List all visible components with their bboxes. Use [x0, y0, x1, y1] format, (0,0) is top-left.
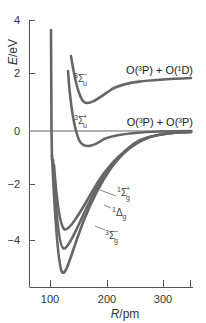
svg-text:E/eV: E/eV — [6, 39, 20, 65]
potential-energy-chart: 4 2 0 −2 −4 100 200 300 E/eV R/pm 3Σu− 3… — [0, 0, 206, 323]
y-tick-label-m2: −2 — [7, 178, 20, 190]
x-axis-title: R/pm — [111, 307, 140, 321]
curve-repulsive — [51, 30, 52, 160]
x-tick-label-200: 200 — [98, 293, 116, 305]
y-axis-title: E/eV — [6, 39, 20, 65]
y-tick-label-4: 4 — [14, 14, 20, 26]
y-tick-label-2: 2 — [14, 67, 20, 79]
y-tick-label-m4: −4 — [7, 234, 20, 246]
y-tick-label-0: 0 — [14, 125, 20, 137]
label-3Sigma-g-minus: 3Σg− — [105, 228, 118, 245]
label-1Delta-g: 1Δg — [112, 206, 127, 221]
x-tick-label-300: 300 — [154, 293, 172, 305]
label-1Sigma-g-plus: 1Σg+ — [117, 185, 130, 202]
x-tick-label-100: 100 — [41, 293, 59, 305]
axes — [30, 20, 194, 288]
asymptote-label-upper: O(³P) + O(¹D) — [126, 64, 193, 76]
asymptote-label-lower: O(³P) + O(³P) — [127, 116, 193, 128]
